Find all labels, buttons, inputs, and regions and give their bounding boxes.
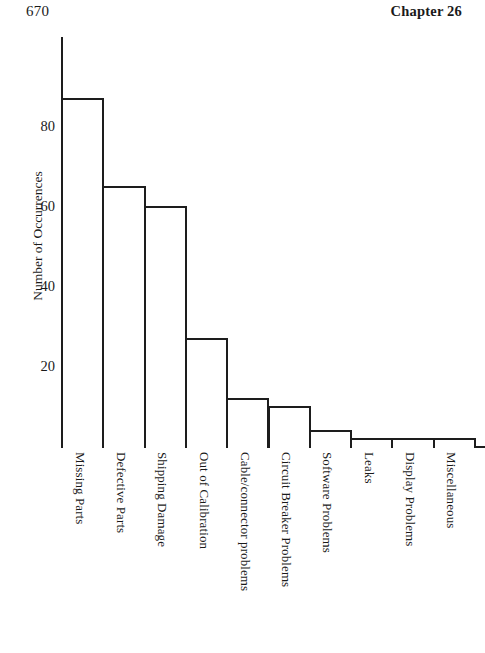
x-axis-label: Software Problems <box>319 452 335 553</box>
x-axis-label: Display Problems <box>402 452 418 546</box>
x-axis-label: Circuit Breaker Problems <box>278 452 294 587</box>
x-axis-label: Defective Parts <box>113 452 129 533</box>
x-axis-label: Missing Parts <box>72 452 88 524</box>
x-axis-label: Cable/connector problems <box>237 452 253 591</box>
x-axis-label: Leaks <box>361 452 377 484</box>
x-axis-label: Miscellaneous <box>443 452 459 528</box>
x-axis-label: Out of Calibration <box>196 452 212 549</box>
x-axis-label: Shipping Damage <box>154 452 170 547</box>
